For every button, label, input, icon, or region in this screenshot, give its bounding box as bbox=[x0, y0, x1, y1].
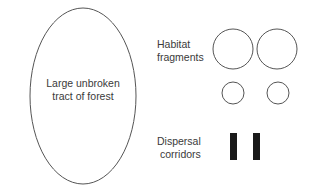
corridors-label-line1: Dispersal bbox=[157, 135, 201, 148]
corridor-bar-2 bbox=[253, 133, 260, 160]
large-fragment-circle-1 bbox=[213, 29, 253, 69]
forest-label: Large unbroken tract of forest bbox=[40, 77, 126, 102]
fragments-label-line2: fragments bbox=[157, 51, 204, 64]
forest-label-line1: Large unbroken bbox=[40, 77, 126, 90]
corridors-label: Dispersal corridors bbox=[157, 135, 201, 160]
small-fragment-circle-2 bbox=[267, 82, 289, 104]
corridor-bar-1 bbox=[230, 133, 237, 160]
forest-label-line2: tract of forest bbox=[40, 90, 126, 103]
fragments-label-line1: Habitat bbox=[157, 38, 204, 51]
fragments-label: Habitat fragments bbox=[157, 38, 204, 63]
small-fragment-circle-1 bbox=[222, 82, 244, 104]
large-fragment-circle-2 bbox=[257, 29, 297, 69]
corridors-label-line2: corridors bbox=[157, 148, 201, 161]
